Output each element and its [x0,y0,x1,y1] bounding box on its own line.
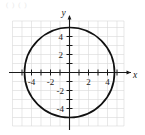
y-axis-arrow [68,15,72,20]
y-tick-label--2: -2 [57,86,65,96]
y-tick-label--4: -4 [57,104,65,114]
y-tick-label-2: 2 [59,50,64,60]
x-tick-label--2: -2 [47,77,55,87]
x-tick-label-2: 2 [86,77,91,87]
x-tick-label-4: 4 [105,77,110,87]
x-tick-label--4: -4 [28,77,36,87]
axes-group [9,15,131,130]
y-axis-label: y [61,8,67,18]
x-axis-label: x [132,70,138,80]
coordinate-plane-figure: -4 -2 2 4 4 2 -2 -4 x y [0,0,145,135]
y-tick-label-4: 4 [59,32,64,42]
x-axis-arrow [127,71,132,75]
